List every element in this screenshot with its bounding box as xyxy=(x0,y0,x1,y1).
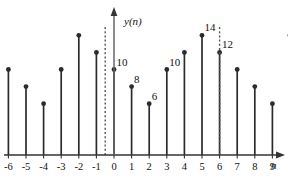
x-tick-label: 3 xyxy=(158,161,176,172)
x-tick-label: 5 xyxy=(193,161,211,172)
stems-group xyxy=(6,33,288,155)
stem-marker xyxy=(129,84,134,89)
y-axis-arrow xyxy=(111,7,118,16)
stem-marker xyxy=(41,101,46,106)
value-annotation: 10 xyxy=(117,57,128,68)
axes-group xyxy=(4,7,285,158)
x-tick-label: 7 xyxy=(228,161,246,172)
x-tick-label: 2 xyxy=(140,161,158,172)
value-annotation: 8 xyxy=(134,74,140,85)
value-annotation: 6 xyxy=(152,91,158,102)
x-tick-label: 4 xyxy=(175,161,193,172)
stem-marker xyxy=(182,50,187,55)
x-tick-label: 0 xyxy=(105,161,123,172)
value-annotation: 12 xyxy=(222,39,233,50)
y-axis-title: y(n) xyxy=(124,16,142,27)
x-axis-arrow xyxy=(276,152,285,159)
x-tick-label: 6 xyxy=(211,161,229,172)
stem-marker xyxy=(200,33,205,38)
stem-marker xyxy=(24,84,29,89)
stem-marker xyxy=(94,50,99,55)
stem-marker xyxy=(164,67,169,72)
x-tick-label: 8 xyxy=(246,161,264,172)
stem-marker xyxy=(252,84,257,89)
x-tick-label: 1 xyxy=(123,161,141,172)
stem-marker xyxy=(6,67,11,72)
stem-marker xyxy=(147,101,152,106)
stem-marker xyxy=(59,67,64,72)
value-annotation: 10 xyxy=(169,57,180,68)
x-tick-label: -1 xyxy=(87,161,105,172)
stem-marker xyxy=(270,101,275,106)
x-tick-label: -4 xyxy=(35,161,53,172)
stem-marker xyxy=(235,67,240,72)
x-tick-label: -5 xyxy=(17,161,35,172)
x-tick-label: 9 xyxy=(263,161,281,172)
stem-plot-figure: y(n) n 1086101412 -6-5-4-3-2-10123456789 xyxy=(0,0,288,189)
x-tick-label: -3 xyxy=(52,161,70,172)
x-tick-label: -6 xyxy=(0,161,17,172)
x-tick-label: -2 xyxy=(70,161,88,172)
stem-marker xyxy=(76,33,81,38)
value-annotation: 14 xyxy=(205,22,216,33)
